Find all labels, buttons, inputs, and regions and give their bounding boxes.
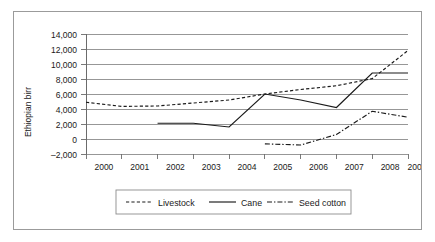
x-tick-label: 2005 [273,162,292,172]
horizontal-gridlines [86,34,408,154]
x-tick-label: 2007 [345,162,364,172]
x-axis-tick-marks [86,154,408,159]
chart-plot-area: Ethiopian birr 14,000 12,000 10,000 8,00… [14,12,421,229]
x-tick-label: 2001 [130,162,149,172]
legend-label-livestock: Livestock [158,198,195,208]
y-tick-label: 6,000 [56,90,78,100]
y-axis-title: Ethiopian birr [23,87,33,137]
x-tick-label: 2008 [381,162,400,172]
y-tick-label: 12,000 [51,45,77,55]
x-tick-label: 2003 [202,162,221,172]
y-tick-label: 10,000 [51,60,77,70]
x-axis-tick-labels: 2000 2001 2002 2003 2004 2005 2006 2007 … [94,162,421,172]
y-axis-tick-labels: 14,000 12,000 10,000 8,000 6,000 4,000 2… [51,30,77,160]
chart-figure: Ethiopian birr 14,000 12,000 10,000 8,00… [13,11,422,230]
x-tick-label: 2006 [309,162,328,172]
y-tick-label: –2,000 [51,150,77,160]
line-chart-svg: Ethiopian birr 14,000 12,000 10,000 8,00… [14,12,421,229]
x-tick-label: 2002 [166,162,185,172]
x-tick-label: 2000 [94,162,113,172]
series-line-livestock [86,51,408,107]
y-tick-label: 4,000 [56,105,78,115]
series-line-cane [158,73,408,127]
x-tick-label: 2009 [408,162,421,172]
y-tick-label: 2,000 [56,120,78,130]
x-tick-label: 2004 [238,162,257,172]
y-tick-label: 14,000 [51,30,77,40]
legend-label-cane: Cane [241,198,262,208]
chart-legend: Livestock Cane Seed cotton [116,190,351,214]
y-axis-tick-marks [81,34,86,154]
y-tick-label: 0 [72,135,77,145]
y-tick-label: 8,000 [56,75,78,85]
series-line-seed-cotton [265,111,408,145]
legend-label-seed-cotton: Seed cotton [299,198,346,208]
